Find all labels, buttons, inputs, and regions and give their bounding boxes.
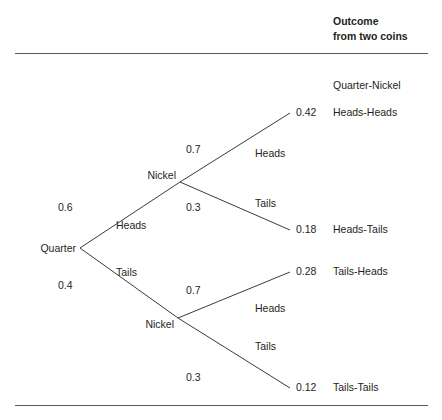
joint-probability-tails-heads: 0.28: [296, 265, 316, 278]
outcome-label-tails-tails: Tails-Tails: [333, 381, 379, 394]
node-label-nickel-lower: Nickel: [108, 318, 174, 331]
joint-probability-heads-tails: 0.18: [296, 223, 316, 236]
line-quarter-to-nickel-upper: [80, 182, 180, 248]
line-quarter-to-nickel-lower: [80, 248, 178, 318]
probability-tails-heads: 0.7: [186, 284, 201, 297]
joint-probability-heads-heads: 0.42: [296, 106, 316, 119]
node-label-quarter: Quarter: [8, 242, 76, 255]
outcome-label-heads-heads: Heads-Heads: [333, 106, 397, 119]
branch-label-heads-first: Heads: [116, 219, 146, 232]
node-label-nickel-upper: Nickel: [110, 169, 176, 182]
branch-label-tails-second-lower: Tails: [255, 340, 276, 353]
joint-probability-tails-tails: 0.12: [296, 381, 316, 394]
branch-label-heads-second-upper: Heads: [255, 147, 285, 160]
probability-heads-first: 0.6: [58, 201, 73, 214]
branch-label-heads-second-lower: Heads: [255, 302, 285, 315]
probability-tails-tails: 0.3: [186, 371, 201, 384]
outcome-label-heads-tails: Heads-Tails: [333, 223, 388, 236]
branch-label-tails-first: Tails: [116, 266, 137, 279]
probability-tails-first: 0.4: [58, 279, 73, 292]
branch-label-tails-second-upper: Tails: [255, 197, 276, 210]
outcome-label-tails-heads: Tails-Heads: [333, 265, 388, 278]
probability-tree-figure: Outcome from two coins Quarter-Nickel Qu…: [0, 0, 442, 420]
probability-heads-heads: 0.7: [186, 143, 201, 156]
probability-heads-tails: 0.3: [186, 201, 201, 214]
